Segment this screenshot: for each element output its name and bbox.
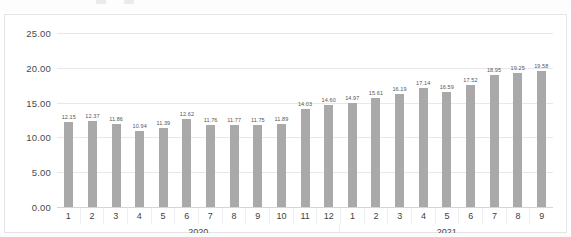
category-tick-label: 1 [341,208,365,224]
bar-slot: 16.19 [388,33,412,207]
ghost-row-text: ·· ···· · ····· ···· ·· ···· ···· [6,0,97,3]
bar-slot: 11.75 [246,33,270,207]
ghost-cell [124,0,134,4]
bar-value-label: 11.75 [251,117,265,123]
category-tick-label: 4 [412,208,436,224]
bar-value-label: 17.14 [416,80,430,86]
bar-value-label: 16.59 [440,84,454,90]
bar-slot: 19.25 [506,33,530,207]
bar[interactable] [301,109,310,207]
bar-slot: 14.03 [293,33,317,207]
category-tick-label: 4 [128,208,152,224]
bar-slot: 17.52 [459,33,483,207]
bar[interactable] [64,122,73,207]
y-axis-tick-label: 20.00 [26,62,51,73]
bar-value-label: 14.97 [345,95,359,101]
category-axis: 123456789101112123456789 [57,208,553,224]
bar[interactable] [348,103,357,207]
bar-value-label: 19.25 [511,65,525,71]
bar-slot: 16.59 [435,33,459,207]
category-tick-label: 2 [365,208,389,224]
category-tick-label: 5 [436,208,460,224]
bar[interactable] [277,124,286,207]
bar-slot: 15.61 [364,33,388,207]
bar-value-label: 15.61 [369,90,383,96]
category-tick-label: 10 [270,208,294,224]
category-tick-label: 11 [294,208,318,224]
bar[interactable] [371,98,380,207]
category-tick-label: 5 [152,208,176,224]
bar-value-label: 14.03 [298,101,312,107]
bar-slot: 18.95 [482,33,506,207]
bar[interactable] [490,75,499,207]
bar[interactable] [466,85,475,207]
category-tick-label: 8 [507,208,531,224]
bar[interactable] [135,131,144,207]
bar-slot: 11.76 [199,33,223,207]
bar-slot: 12.62 [175,33,199,207]
bar[interactable] [442,92,451,207]
category-tick-label: 6 [459,208,483,224]
bar-value-label: 10.94 [133,123,147,129]
y-axis-tick-label: 10.00 [26,132,51,143]
category-tick-label: 7 [199,208,223,224]
bar-slot: 11.86 [104,33,128,207]
category-tick-label: 12 [317,208,341,224]
bar-value-label: 11.89 [275,116,289,122]
bar-value-label: 16.19 [392,86,406,92]
category-tick-label: 9 [246,208,270,224]
y-axis-tick-label: 5.00 [32,167,51,178]
bottom-edge-band [0,233,571,237]
bar-value-label: 11.39 [156,120,170,126]
bar-value-label: 18.95 [487,67,501,73]
bar-value-label: 12.62 [180,111,194,117]
bar-slot: 14.60 [317,33,341,207]
bar-slot: 11.77 [222,33,246,207]
bar-value-label: 12.15 [62,114,76,120]
category-tick-label: 9 [530,208,553,224]
bar[interactable] [395,94,404,207]
bar-slot: 11.89 [270,33,294,207]
cropped-spreadsheet-row: ·· ···· · ····· ···· ·· ···· ···· [0,0,571,12]
bar[interactable] [230,125,239,207]
ghost-cell [96,0,106,4]
category-tick-label: 8 [223,208,247,224]
plot-area: 25.0020.0015.0010.005.000.00 12.1512.371… [57,33,553,207]
bar-slot: 12.15 [57,33,81,207]
bar[interactable] [88,121,97,207]
y-axis-tick-label: 25.00 [26,28,51,39]
bar-value-label: 11.86 [109,116,123,122]
bar[interactable] [537,71,546,207]
bar[interactable] [182,119,191,207]
bar-series: 12.1512.3711.8610.9411.3912.6211.7611.77… [57,33,553,207]
bar-slot: 14.97 [341,33,365,207]
bar-slot: 12.37 [81,33,105,207]
category-tick-label: 3 [104,208,128,224]
category-tick-label: 7 [483,208,507,224]
bar-value-label: 11.76 [204,117,218,123]
bar[interactable] [324,105,333,207]
bar-value-label: 19.58 [534,63,548,69]
y-axis-tick-label: 0.00 [32,202,51,213]
bar-slot: 11.39 [152,33,176,207]
category-tick-label: 6 [175,208,199,224]
bar-slot: 17.14 [411,33,435,207]
bar[interactable] [419,88,428,207]
bar-slot: 19.58 [530,33,554,207]
bar[interactable] [253,125,262,207]
bar[interactable] [513,73,522,207]
bar-value-label: 14.60 [322,97,336,103]
y-axis-tick-label: 15.00 [26,97,51,108]
bar-slot: 10.94 [128,33,152,207]
bar-value-label: 11.77 [227,117,241,123]
bar[interactable] [112,124,121,207]
bar-value-label: 17.52 [463,77,477,83]
bar[interactable] [159,128,168,207]
category-tick-label: 1 [57,208,81,224]
bar-value-label: 12.37 [85,113,99,119]
chart-container[interactable]: 25.0020.0015.0010.005.000.00 12.1512.371… [4,14,567,233]
bar[interactable] [206,125,215,207]
category-tick-label: 3 [388,208,412,224]
category-tick-label: 2 [81,208,105,224]
